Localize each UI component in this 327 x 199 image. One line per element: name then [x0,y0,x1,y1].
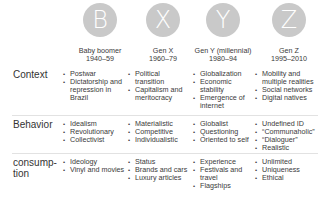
bullet-item: Festivals and travel [193,166,255,182]
gen-z-circle: Z [272,3,306,37]
gen-z-label: Gen Z 1995–2010 [249,47,327,63]
cell-context-y: GlobalizationEconomic stabilityEmergence… [193,70,255,110]
row-label-consumption: consump- tion [13,157,57,179]
bullet-item: Realistic [255,144,325,152]
bullet-item: Oriented to self [193,136,255,144]
row-label-context: Context [13,69,47,80]
bullet-item: Collectivist [63,136,125,144]
gen-years: 1995–2010 [249,55,327,63]
cell-behavior-z: Undefined ID“Communaholic”“Dialoguer”Rea… [255,120,325,152]
row-divider [12,153,318,154]
bullet-item: Ethical [255,174,325,182]
row-divider [12,115,318,116]
bullet-item: Flagships [193,182,255,190]
cell-context-z: Mobility and multiple realitiesSocial ne… [255,70,325,102]
row-label-behavior: Behavior [13,119,52,130]
cell-behavior-b: IdealismRevolutionaryCollectivist [63,120,125,144]
cell-consumption-x: StatusBrands and carsLuxury articles [128,158,190,182]
bullet-item: Economic stability [193,78,255,94]
bullet-item: Political transition [128,70,190,86]
cell-context-b: PostwarDictatorship and repression in Br… [63,70,125,102]
cell-consumption-y: ExperienceFestivals and travelFlagships [193,158,255,190]
bullet-item: Emergence of internet [193,94,255,110]
bullet-item: Capitalism and meritocracy [128,86,190,102]
gen-y-circle: Y [206,3,240,37]
bullet-item: Individualistic [128,136,190,144]
cell-consumption-b: IdeologyVinyl and movies [63,158,125,174]
cell-context-x: Political transitionCapitalism and merit… [128,70,190,102]
cell-consumption-z: UnlimitedUniquenessEthical [255,158,325,182]
bullet-item: Digital natives [255,94,325,102]
bullet-item: Mobility and multiple realities [255,70,325,86]
bullet-item: Dictatorship and repression in Brazil [63,78,125,102]
bullet-item: Luxury articles [128,174,190,182]
gen-x-circle: X [146,3,180,37]
cell-behavior-x: MaterialisticCompetitiveIndividualistic [128,120,190,144]
gen-b-circle: B [83,3,117,37]
cell-behavior-y: GlobalistQuestioningOriented to self [193,120,255,144]
bullet-item: Vinyl and movies [63,166,125,174]
